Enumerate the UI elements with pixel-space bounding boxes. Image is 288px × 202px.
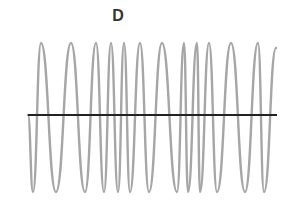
waveform-chart: [0, 0, 288, 202]
waveform-line: [28, 43, 276, 192]
